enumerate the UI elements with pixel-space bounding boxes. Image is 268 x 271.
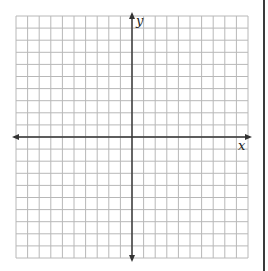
coordinate-plane: y x [0,0,268,271]
axes [12,12,252,262]
x-axis-label: x [238,139,245,152]
page-border [263,0,265,271]
y-axis-label: y [136,14,143,27]
grid [0,0,268,271]
